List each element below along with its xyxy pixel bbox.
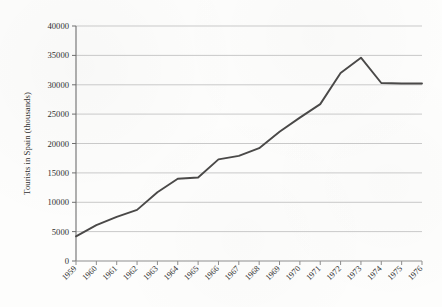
x-tick-label-1959: 1959 xyxy=(60,264,78,282)
x-tick-label-1962: 1962 xyxy=(121,264,139,282)
x-tick-label-1965: 1965 xyxy=(182,264,200,282)
x-tick-label-1973: 1973 xyxy=(345,264,363,282)
y-axis-title: Tourists in Spain (thousands) xyxy=(22,92,32,195)
x-tick-label-1975: 1975 xyxy=(386,264,404,282)
x-tick-label-1960: 1960 xyxy=(81,264,99,282)
x-tick-labels: 1959196019611962196319641965196619671968… xyxy=(60,263,424,282)
y-tick-label-25000: 25000 xyxy=(48,109,69,119)
line-chart: 40000 35000 30000 25000 20000 15000 1000… xyxy=(0,0,442,307)
x-tick-marks xyxy=(76,261,422,265)
chart-figure: 40000 35000 30000 25000 20000 15000 1000… xyxy=(0,0,442,307)
y-tick-labels: 40000 35000 30000 25000 20000 15000 1000… xyxy=(48,21,69,266)
y-tick-label-10000: 10000 xyxy=(48,197,69,207)
x-tick-label-1966: 1966 xyxy=(203,264,221,282)
y-tick-label-30000: 30000 xyxy=(48,80,69,90)
y-tick-marks xyxy=(72,26,76,261)
x-tick-label-1972: 1972 xyxy=(325,264,343,282)
y-tick-label-35000: 35000 xyxy=(48,50,69,60)
y-tick-label-0: 0 xyxy=(65,256,69,266)
x-tick-label-1964: 1964 xyxy=(162,263,181,282)
y-tick-label-5000: 5000 xyxy=(52,227,69,237)
x-tick-label-1974: 1974 xyxy=(366,263,385,282)
gridlines xyxy=(76,26,422,232)
x-tick-label-1969: 1969 xyxy=(264,264,282,282)
y-tick-label-40000: 40000 xyxy=(48,21,69,31)
x-tick-label-1976: 1976 xyxy=(406,264,424,282)
x-tick-label-1963: 1963 xyxy=(142,264,160,282)
y-tick-label-15000: 15000 xyxy=(48,168,69,178)
x-tick-label-1971: 1971 xyxy=(304,264,322,282)
x-tick-label-1967: 1967 xyxy=(223,264,241,282)
x-tick-label-1961: 1961 xyxy=(101,264,119,282)
x-tick-label-1970: 1970 xyxy=(284,264,302,282)
x-tick-label-1968: 1968 xyxy=(243,264,261,282)
y-tick-label-20000: 20000 xyxy=(48,139,69,149)
